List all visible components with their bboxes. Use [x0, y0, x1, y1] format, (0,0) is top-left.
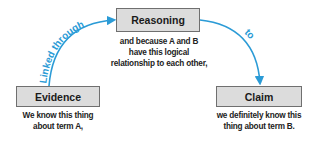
claim-desc-line: thing about term B.: [206, 121, 312, 132]
reasoning-description: and because A and B have this logical re…: [104, 36, 214, 69]
evidence-box: Evidence: [16, 86, 100, 107]
reasoning-label: Reasoning: [131, 14, 185, 26]
reasoning-box: Reasoning: [116, 8, 200, 32]
evidence-desc-line: about term A,: [8, 121, 108, 132]
claim-desc-line: we definitely know this: [206, 110, 312, 121]
claim-label: Claim: [245, 91, 274, 103]
reasoning-desc-line: and because A and B: [104, 36, 214, 47]
edge-label-linked-through: Linked through: [37, 19, 85, 85]
evidence-description: We know this thing about term A,: [8, 110, 108, 132]
claim-description: we definitely know this thing about term…: [206, 110, 312, 132]
reasoning-desc-line: relationship to each other,: [104, 58, 214, 69]
evidence-desc-line: We know this thing: [8, 110, 108, 121]
claim-box: Claim: [216, 86, 302, 107]
reasoning-desc-line: have this logical: [104, 47, 214, 58]
evidence-label: Evidence: [35, 91, 81, 103]
edge-label-to: to: [243, 27, 257, 41]
